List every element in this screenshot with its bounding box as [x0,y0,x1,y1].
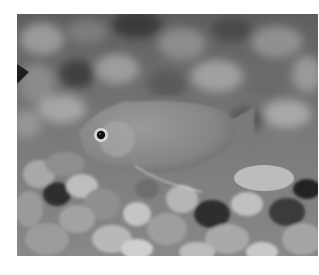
fish-photo [17,14,318,256]
pebble [234,165,294,191]
fish-on-gravel-image [17,14,318,256]
